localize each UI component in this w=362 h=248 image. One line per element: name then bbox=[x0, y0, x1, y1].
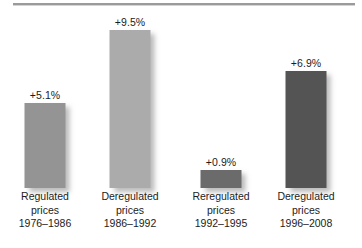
category-label-2-line-3: 1986–1992 bbox=[87, 217, 173, 231]
plot-area: +5.1% +9.5% +0.9% +6.9% bbox=[0, 0, 362, 188]
bar-reregulated-1992-1995 bbox=[201, 170, 242, 188]
category-label-4-line-2: prices bbox=[263, 204, 349, 218]
bar-value-label-2: +9.5% bbox=[115, 16, 146, 28]
bar-value-label-3: +0.9% bbox=[206, 156, 237, 168]
category-label-2-line-1: Deregulated bbox=[87, 190, 173, 204]
category-label-4-line-3: 1996–2008 bbox=[263, 217, 349, 231]
bar-value-label-4: +6.9% bbox=[291, 57, 322, 69]
category-label-3-line-3: 1992–1995 bbox=[178, 217, 264, 231]
bar-chart-figure: +5.1% +9.5% +0.9% +6.9% Regulated prices… bbox=[0, 0, 362, 248]
category-label-1-line-1: Regulated bbox=[2, 190, 88, 204]
bar-value-label-1: +5.1% bbox=[30, 89, 61, 101]
bar-deregulated-1996-2008 bbox=[286, 71, 327, 188]
bar-group-2: +9.5% bbox=[87, 0, 173, 188]
bar-regulated-1976-1986 bbox=[25, 103, 66, 188]
category-label-4: Deregulated prices 1996–2008 bbox=[263, 190, 349, 231]
bar-group-1: +5.1% bbox=[2, 0, 88, 188]
category-label-2: Deregulated prices 1986–1992 bbox=[87, 190, 173, 231]
bar-group-4: +6.9% bbox=[263, 0, 349, 188]
category-axis-labels: Regulated prices 1976–1986 Deregulated p… bbox=[0, 190, 362, 248]
category-label-2-line-2: prices bbox=[87, 204, 173, 218]
category-label-1: Regulated prices 1976–1986 bbox=[2, 190, 88, 231]
category-label-1-line-3: 1976–1986 bbox=[2, 217, 88, 231]
bar-deregulated-1986-1992 bbox=[110, 30, 151, 188]
category-label-4-line-1: Deregulated bbox=[263, 190, 349, 204]
category-label-3: Reregulated prices 1992–1995 bbox=[178, 190, 264, 231]
bar-group-3: +0.9% bbox=[178, 0, 264, 188]
category-label-1-line-2: prices bbox=[2, 204, 88, 218]
category-label-3-line-2: prices bbox=[178, 204, 264, 218]
category-label-3-line-1: Reregulated bbox=[178, 190, 264, 204]
